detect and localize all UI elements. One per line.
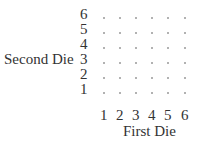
outcome-dot [103,32,105,34]
outcome-dot [167,17,169,19]
x-axis-label: First Die [123,124,176,139]
outcome-dot [103,62,105,64]
outcome-dot [119,77,121,79]
x-tick-4: 4 [148,108,156,123]
outcome-dot [103,92,105,94]
outcome-dot [151,32,153,34]
outcome-dot [135,77,137,79]
outcome-dot [151,47,153,49]
x-tick-2: 2 [116,108,124,123]
outcome-dot [151,92,153,94]
outcome-dot [135,47,137,49]
outcome-dot [167,47,169,49]
outcome-dot [151,17,153,19]
outcome-dot [103,17,105,19]
outcome-dot [119,62,121,64]
outcome-dot [151,77,153,79]
outcome-dot [119,17,121,19]
y-tick-3: 3 [80,52,88,67]
outcome-dot [184,17,186,19]
outcome-dot [167,32,169,34]
outcome-dot [167,77,169,79]
outcome-dot [167,92,169,94]
y-tick-6: 6 [80,7,88,22]
outcome-dot [184,32,186,34]
outcome-dot [119,47,121,49]
y-axis-label: Second Die [4,52,74,67]
x-tick-6: 6 [181,108,189,123]
y-tick-5: 5 [80,22,88,37]
outcome-dot [184,77,186,79]
x-tick-1: 1 [100,108,108,123]
outcome-dot [184,92,186,94]
outcome-dot [103,77,105,79]
outcome-dot [135,92,137,94]
y-tick-1: 1 [80,82,88,97]
y-tick-4: 4 [80,37,88,52]
x-tick-5: 5 [164,108,172,123]
outcome-dot [119,32,121,34]
x-tick-3: 3 [132,108,140,123]
y-tick-2: 2 [80,67,88,82]
outcome-dot [151,62,153,64]
outcome-dot [103,47,105,49]
outcome-dot [135,62,137,64]
outcome-dot [167,62,169,64]
outcome-dot [135,17,137,19]
outcome-dot [184,62,186,64]
outcome-dot [119,92,121,94]
outcome-dot [135,32,137,34]
outcome-dot [184,47,186,49]
